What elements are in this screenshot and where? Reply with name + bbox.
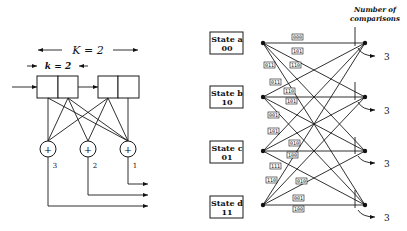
svg-text:010: 010 [297, 178, 306, 184]
svg-text:101: 101 [287, 98, 296, 104]
svg-text:01: 01 [221, 152, 232, 162]
svg-text:111: 111 [271, 163, 280, 169]
svg-text:101: 101 [293, 48, 302, 54]
svg-text:11: 11 [221, 207, 232, 217]
svg-text:110: 110 [291, 62, 300, 68]
branch-label: 101 [268, 128, 279, 134]
branch-label: 010 [289, 140, 300, 146]
branch-label: 001 [268, 112, 279, 118]
svg-text:110: 110 [267, 177, 276, 183]
svg-text:001: 001 [269, 112, 278, 118]
plus-icon: + [84, 144, 92, 155]
svg-text:001: 001 [294, 195, 303, 201]
comparison-count: 3 [384, 213, 390, 223]
register-stage-2b [118, 76, 139, 98]
branch-label: 110 [284, 88, 295, 94]
svg-text:101: 101 [269, 128, 278, 134]
trellis: Number of comparisons State a 00 State b… [210, 5, 400, 223]
svg-text:10: 10 [221, 97, 233, 107]
state-d: State d 11 [210, 196, 243, 218]
state-c: State c 01 [210, 141, 243, 163]
k-dimension: k = 2 [27, 61, 88, 71]
state-b: State b 10 [210, 86, 243, 108]
constraint-length-dimension: K = 2 [38, 44, 138, 57]
branch-label: 101 [292, 48, 303, 54]
branch-label: 011 [264, 62, 275, 68]
svg-text:010: 010 [290, 140, 299, 146]
adder-label: 1 [133, 162, 137, 170]
svg-text:110: 110 [285, 88, 294, 94]
adder-label: 2 [93, 162, 97, 170]
branch-label: 111 [270, 163, 281, 169]
svg-text:000: 000 [293, 34, 302, 40]
svg-text:011: 011 [271, 79, 280, 85]
comparisons-header-line2: comparisons [350, 14, 400, 23]
k-label: k = 2 [45, 61, 71, 71]
branch-label: 011 [270, 79, 281, 85]
register-stage-1b [58, 76, 78, 98]
register-stage-1a [37, 76, 58, 98]
adder-label: 3 [53, 162, 57, 170]
svg-text:011: 011 [265, 62, 274, 68]
comparison-count: 3 [384, 106, 390, 116]
comparison-markers: 3 3 3 3 [355, 27, 390, 223]
branch-label: 100 [287, 152, 298, 158]
constraint-length-label: K = 2 [71, 44, 103, 57]
comparison-count: 3 [384, 52, 390, 62]
branch-label: 010 [296, 178, 307, 184]
adder-1: + 1 [120, 141, 137, 170]
branch-label: 110 [290, 62, 301, 68]
state-a: State a 00 [210, 32, 243, 54]
svg-text:100: 100 [294, 206, 303, 212]
branch-label: 110 [266, 177, 277, 183]
tap-connections [48, 98, 128, 141]
plus-icon: + [44, 144, 52, 155]
adder-3: + 3 [40, 141, 57, 170]
trellis-branches [263, 43, 365, 205]
register-stage-2a [98, 76, 118, 98]
branch-label: 100 [293, 206, 304, 212]
encoder: K = 2 k = 2 [12, 44, 148, 206]
svg-text:00: 00 [221, 43, 233, 53]
plus-icon: + [124, 144, 132, 155]
svg-text:100: 100 [288, 152, 297, 158]
adder-2: + 2 [80, 141, 97, 170]
branch-label: 001 [293, 195, 304, 201]
diagram-canvas: K = 2 k = 2 [0, 0, 407, 231]
comparisons-header-line1: Number of [353, 5, 398, 14]
comparison-count: 3 [384, 159, 390, 169]
branch-label: 000 [292, 34, 303, 40]
branch-label: 101 [286, 98, 297, 104]
